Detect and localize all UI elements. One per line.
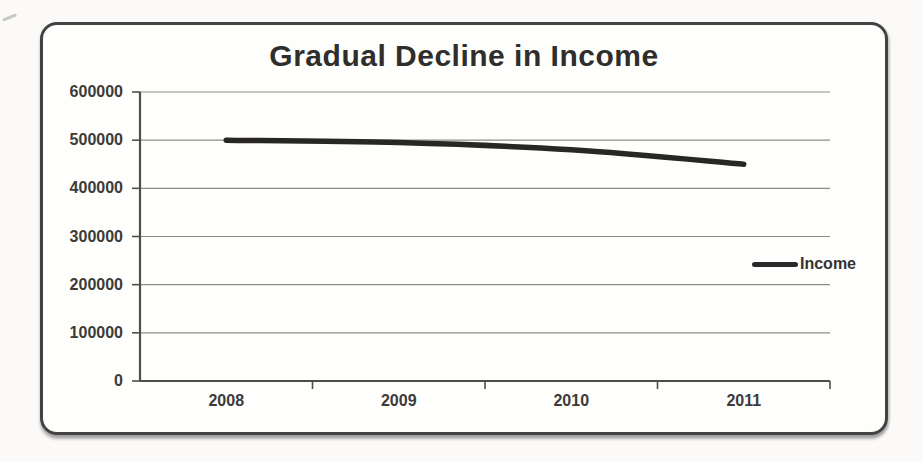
line-chart-plot-area (130, 90, 835, 392)
chart-title: Gradual Decline in Income (43, 39, 885, 73)
legend: Income (752, 255, 856, 273)
y-axis-labels: 6000005000004000003000002000001000000 (43, 25, 123, 432)
income-series-line (226, 140, 744, 164)
y-tick-label: 300000 (43, 227, 123, 247)
y-tick-label: 500000 (43, 130, 123, 150)
x-tick-label: 2011 (704, 392, 784, 410)
y-tick-label: 100000 (43, 323, 123, 343)
x-tick-label: 2008 (186, 392, 266, 410)
x-tick-label: 2010 (531, 392, 611, 410)
y-tick-label: 200000 (43, 275, 123, 295)
y-tick-label: 400000 (43, 178, 123, 198)
y-tick-label: 600000 (43, 82, 123, 102)
y-tick-label: 0 (43, 371, 123, 391)
legend-label: Income (800, 255, 856, 273)
scan-smudge (2, 13, 17, 21)
x-tick-label: 2009 (359, 392, 439, 410)
legend-line-swatch (752, 262, 798, 267)
chart-card: Gradual Decline in Income 60000050000040… (40, 22, 888, 435)
